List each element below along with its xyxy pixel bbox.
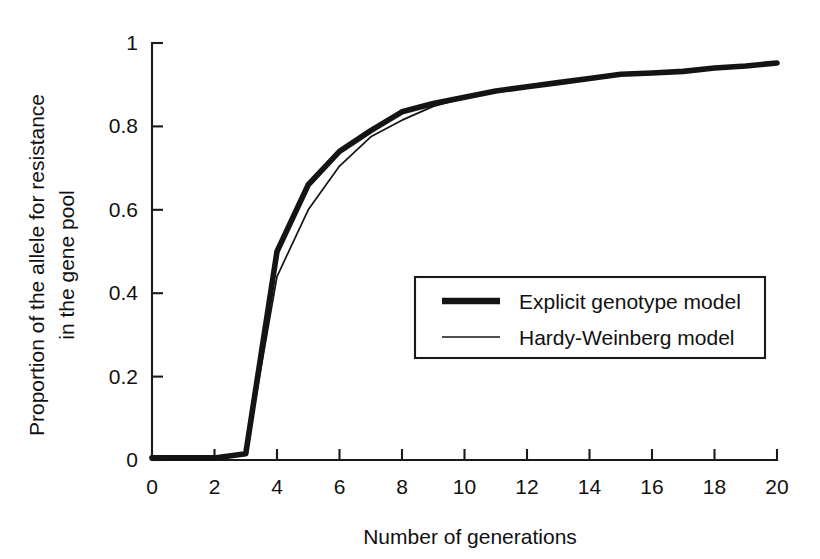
- y-tick-label-0: 0: [126, 448, 138, 471]
- y-axis-title-line-2: in the gene pool: [55, 190, 78, 339]
- y-axis-title-group: Proportion of the allele for resistance …: [25, 94, 78, 436]
- x-tick-label-18: 18: [703, 475, 726, 498]
- x-tick-label-4: 4: [271, 475, 283, 498]
- line-chart-svg: Proportion of the allele for resistance …: [0, 0, 820, 559]
- series-line-thick: [152, 63, 777, 458]
- x-tick-label-16: 16: [640, 475, 663, 498]
- y-tick-label-0.6: 0.6: [109, 198, 138, 221]
- chart-figure: Proportion of the allele for resistance …: [0, 0, 820, 559]
- legend-label-2: Hardy-Weinberg model: [519, 326, 735, 349]
- data-series-group: [152, 63, 777, 458]
- series-line-thin: [152, 63, 777, 458]
- y-tick-label-0.2: 0.2: [109, 365, 138, 388]
- y-tick-label-0.8: 0.8: [109, 114, 138, 137]
- legend-label-1: Explicit genotype model: [519, 290, 741, 313]
- x-tick-label-10: 10: [453, 475, 476, 498]
- x-tick-label-2: 2: [209, 475, 221, 498]
- x-tick-label-8: 8: [396, 475, 408, 498]
- x-tick-label-12: 12: [515, 475, 538, 498]
- x-tick-label-14: 14: [578, 475, 602, 498]
- x-tick-label-6: 6: [334, 475, 346, 498]
- chart-legend: Explicit genotype modelHardy-Weinberg mo…: [415, 277, 765, 358]
- x-axis-title: Number of generations: [363, 525, 577, 548]
- y-axis-ticks: 00.20.40.60.81: [109, 31, 163, 471]
- y-tick-label-0.4: 0.4: [109, 281, 139, 304]
- y-axis-title-line-1: Proportion of the allele for resistance: [25, 94, 48, 436]
- y-tick-label-1: 1: [126, 31, 138, 54]
- x-tick-label-20: 20: [765, 475, 788, 498]
- x-tick-label-0: 0: [146, 475, 158, 498]
- axes-group: [152, 43, 777, 460]
